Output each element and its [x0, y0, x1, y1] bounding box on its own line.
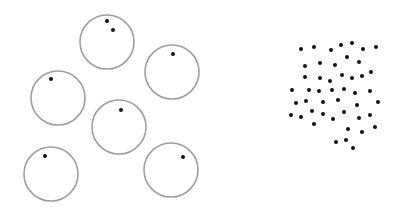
dot: [344, 138, 348, 142]
dot: [369, 70, 373, 74]
dot: [303, 75, 307, 79]
dot: [119, 108, 123, 112]
dot: [299, 47, 303, 51]
dot: [321, 112, 325, 116]
circle-group: [80, 15, 134, 69]
dot: [331, 117, 335, 121]
dot: [368, 113, 372, 117]
dot: [360, 74, 364, 78]
dot: [353, 91, 357, 95]
dot: [289, 113, 293, 117]
circle-outline: [31, 71, 85, 125]
dot: [294, 101, 298, 105]
dot: [171, 52, 175, 56]
dot: [374, 45, 378, 49]
dot: [43, 154, 47, 158]
circle-group: [92, 100, 146, 154]
dot: [181, 155, 185, 159]
dot: [312, 122, 316, 126]
circles-panel: [24, 15, 199, 201]
dot: [342, 87, 346, 91]
dot: [334, 140, 338, 144]
dot: [303, 64, 307, 68]
circle-group: [144, 143, 198, 197]
dot: [350, 76, 354, 80]
dot: [318, 76, 322, 80]
dot: [350, 41, 354, 45]
dot: [329, 48, 333, 52]
dot: [340, 73, 344, 77]
dot: [333, 63, 337, 67]
dot: [357, 116, 361, 120]
dot: [105, 19, 109, 23]
dot: [304, 99, 308, 103]
dot: [376, 100, 380, 104]
circle-outline: [80, 15, 134, 69]
dot: [346, 127, 350, 131]
circle-group: [24, 147, 78, 201]
circle-outline: [24, 147, 78, 201]
dot-cluster-panel: [289, 41, 380, 150]
dot: [49, 77, 53, 81]
dot: [317, 89, 321, 93]
dot: [330, 88, 334, 92]
dot: [361, 47, 365, 51]
circle-outline: [144, 143, 198, 197]
dot: [339, 43, 343, 47]
dot: [342, 110, 346, 114]
circle-group: [31, 71, 85, 125]
dot: [318, 61, 322, 65]
dot: [328, 79, 332, 83]
dot: [336, 98, 340, 102]
dot: [351, 146, 355, 150]
dot: [290, 88, 294, 92]
circle-group: [145, 45, 199, 99]
dot: [310, 109, 314, 113]
dot-diagram: [0, 0, 402, 213]
dot: [299, 115, 303, 119]
dot: [360, 130, 364, 134]
dot: [373, 125, 377, 129]
dot: [357, 60, 361, 64]
dot: [345, 55, 349, 59]
dot: [312, 45, 316, 49]
dot: [307, 88, 311, 92]
dot: [368, 89, 372, 93]
dot: [355, 103, 359, 107]
dot: [321, 100, 325, 104]
dot: [111, 28, 115, 32]
circle-outline: [92, 100, 146, 154]
